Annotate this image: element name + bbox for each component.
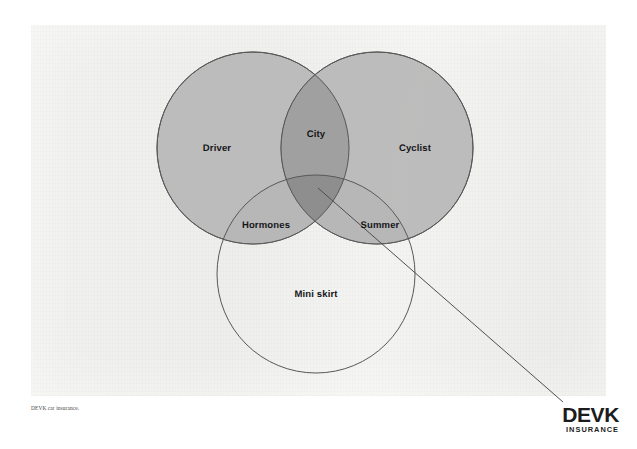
venn-label-cyclist: Cyclist: [399, 143, 431, 154]
venn-label-mini-skirt: Mini skirt: [294, 289, 337, 300]
venn-label-hormones: Hormones: [242, 220, 290, 231]
logo-wordmark: DEVK: [562, 404, 619, 425]
venn-label-city: City: [307, 129, 326, 140]
venn-label-summer: Summer: [361, 220, 400, 231]
advertisement-page: Driver Cyclist Mini skirt City Hormones …: [0, 0, 637, 449]
fineprint-text: DEVK car insurance.: [31, 405, 79, 411]
venn-label-driver: Driver: [203, 143, 231, 154]
logo-tagline: INSURANCE: [562, 426, 619, 433]
devk-logo: DEVK INSURANCE: [562, 404, 619, 433]
venn-diagram: [0, 0, 637, 449]
